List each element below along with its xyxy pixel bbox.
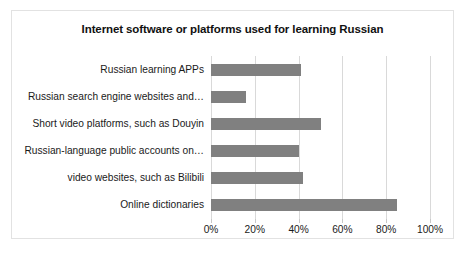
bar [211, 172, 303, 184]
x-tick-mark [430, 219, 431, 223]
x-tick-mark [255, 219, 256, 223]
x-tick-label: 20% [245, 224, 265, 235]
bar [211, 91, 246, 103]
category-label: Russian search engine websites and… [28, 91, 204, 102]
chart-frame: Internet software or platforms used for … [11, 10, 454, 239]
bar [211, 118, 321, 130]
x-tick-label: 0% [204, 224, 219, 235]
x-tick-label: 80% [376, 224, 396, 235]
category-label: Short video platforms, such as Douyin [32, 118, 204, 129]
x-tick-mark [386, 219, 387, 223]
category-label: video websites, such as Bilibili [68, 173, 204, 184]
chart-title: Internet software or platforms used for … [12, 23, 453, 35]
x-tick-mark [211, 219, 212, 223]
bar-row: video websites, such as Bilibili [211, 165, 430, 192]
x-tick-label: 100% [417, 224, 443, 235]
x-tick-label: 60% [332, 224, 352, 235]
gridline-100pct [430, 56, 431, 219]
bar [211, 145, 299, 157]
x-tick-label: 40% [288, 224, 308, 235]
category-label: Russian-language public accounts on… [24, 145, 204, 156]
category-label: Online dictionaries [120, 200, 204, 211]
x-axis: 0%20%40%60%80%100% [211, 219, 430, 237]
category-label: Russian learning APPs [100, 64, 204, 75]
bar [211, 199, 397, 211]
bar-row: Russian-language public accounts on… [211, 138, 430, 165]
x-tick-mark [342, 219, 343, 223]
bar-row: Short video platforms, such as Douyin [211, 110, 430, 137]
bar-row: Russian search engine websites and… [211, 83, 430, 110]
bar-row: Online dictionaries [211, 192, 430, 219]
bar [211, 64, 301, 76]
plot-area: Russian learning APPsRussian search engi… [211, 56, 430, 219]
x-tick-mark [299, 219, 300, 223]
bar-row: Russian learning APPs [211, 56, 430, 83]
